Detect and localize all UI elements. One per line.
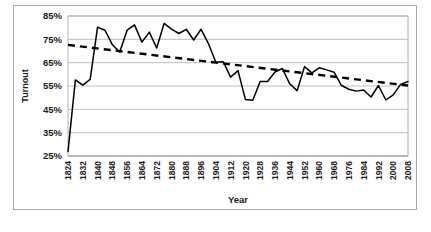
x-axis-tick-label: 1976 <box>344 161 354 180</box>
x-axis-tick: 1840 <box>93 161 103 180</box>
x-axis-tick: 1872 <box>152 161 162 180</box>
x-axis-tick-label: 1872 <box>152 161 162 180</box>
y-axis-tick-label: 45% <box>43 104 63 115</box>
y-axis-tick-label: 35% <box>43 127 63 138</box>
turnout-line-chart: 25%35%45%55%65%75%85%1824183218401848185… <box>14 6 416 209</box>
x-axis-tick-label: 1832 <box>78 161 88 180</box>
x-axis-tick-label: 1936 <box>270 161 280 180</box>
x-axis-tick: 1856 <box>122 161 132 180</box>
x-axis-tick-label: 1848 <box>107 161 117 180</box>
x-axis-tick: 1928 <box>255 161 265 180</box>
x-axis-tick: 1888 <box>181 161 191 180</box>
x-axis-tick-label: 1840 <box>93 161 103 180</box>
x-axis-tick-label: 1880 <box>167 161 177 180</box>
y-axis-title: Turnout <box>20 69 30 102</box>
x-axis-tick: 1936 <box>270 161 280 180</box>
y-axis-tick-label: 25% <box>43 150 63 161</box>
x-axis-tick: 2000 <box>388 161 398 180</box>
x-axis-tick-label: 1928 <box>255 161 265 180</box>
chart-figure: 25%35%45%55%65%75%85%1824183218401848185… <box>13 5 417 210</box>
x-axis-tick-label: 1944 <box>285 161 295 180</box>
y-axis-title-label: Turnout <box>20 69 30 102</box>
x-axis-tick: 1880 <box>167 161 177 180</box>
x-axis-tick: 1848 <box>107 161 117 180</box>
x-axis-tick: 1896 <box>196 161 206 180</box>
y-axis-tick-label: 85% <box>43 10 63 21</box>
x-axis-tick-label: 1904 <box>211 161 221 180</box>
x-axis-tick: 1904 <box>211 161 221 180</box>
x-axis-title: Year <box>228 194 248 205</box>
x-axis-tick-label: 1960 <box>314 161 324 180</box>
x-axis-tick: 1832 <box>78 161 88 180</box>
x-axis-tick: 1984 <box>359 161 369 180</box>
x-axis-tick: 1864 <box>137 161 147 180</box>
x-axis-tick-label: 1824 <box>63 161 73 180</box>
x-axis-tick: 1944 <box>285 161 295 180</box>
x-axis-tick: 2008 <box>403 161 413 180</box>
x-axis-tick-label: 1992 <box>374 161 384 180</box>
x-axis-tick-label: 1864 <box>137 161 147 180</box>
y-axis-tick-label: 55% <box>43 80 63 91</box>
x-axis-tick-label: 1984 <box>359 161 369 180</box>
x-axis-tick: 1968 <box>329 161 339 180</box>
x-axis-tick: 1952 <box>300 161 310 180</box>
x-axis-tick: 1992 <box>374 161 384 180</box>
x-axis-tick: 1976 <box>344 161 354 180</box>
x-axis-tick-label: 2008 <box>403 161 413 180</box>
x-axis-tick-label: 1968 <box>329 161 339 180</box>
x-axis-tick-label: 1888 <box>181 161 191 180</box>
x-axis-tick-label: 1856 <box>122 161 132 180</box>
x-axis-tick: 1824 <box>63 161 73 180</box>
y-axis-tick-label: 65% <box>43 57 63 68</box>
x-axis-tick-label: 2000 <box>388 161 398 180</box>
x-axis-tick-label: 1920 <box>240 161 250 180</box>
x-axis-tick-label: 1952 <box>300 161 310 180</box>
x-axis-tick: 1912 <box>226 161 236 180</box>
x-axis-tick-label: 1896 <box>196 161 206 180</box>
x-axis-tick-label: 1912 <box>226 161 236 180</box>
x-axis-tick: 1960 <box>314 161 324 180</box>
x-axis-tick: 1920 <box>240 161 250 180</box>
y-axis-tick-label: 75% <box>43 34 63 45</box>
